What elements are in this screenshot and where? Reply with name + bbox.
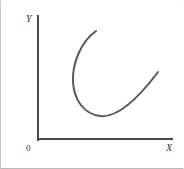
origin-label: 0 — [26, 144, 31, 153]
x-axis-label: X — [166, 143, 172, 153]
curve-diagram-figure: Y X 0 — [0, 0, 184, 169]
y-axis-label: Y — [26, 14, 32, 24]
u-shaped-curve — [73, 31, 158, 116]
